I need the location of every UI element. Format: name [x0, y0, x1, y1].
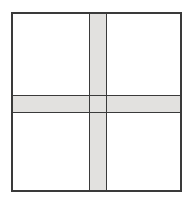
quadrant-bottom-left: [11, 113, 89, 192]
quadrant-top-right: [107, 12, 182, 95]
figure-container: [0, 0, 194, 205]
band-intersection: [89, 95, 107, 113]
quadrant-bottom-right: [107, 113, 182, 192]
cross-band-square-diagram: [0, 0, 194, 205]
quadrant-top-left: [11, 12, 89, 95]
